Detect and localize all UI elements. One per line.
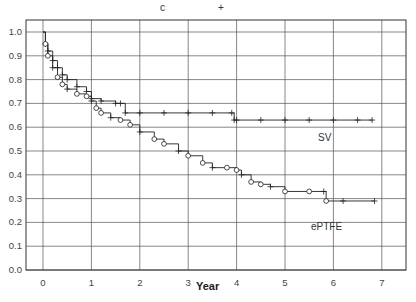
survival-curves [42,32,377,204]
series-label-eptfe: ePTFE [311,221,342,232]
series-label-sv: SV [318,132,331,143]
y-tick-label: 0.5 [0,145,22,156]
event-marker [152,137,157,142]
censor-marker [306,117,312,123]
event-marker [94,106,99,111]
y-tick-label: 0.9 [0,50,22,61]
x-tick-label: 1 [84,277,98,288]
y-tick-label: 0.8 [0,74,22,85]
event-marker [74,91,79,96]
x-tick-label: 3 [181,277,195,288]
event-marker [60,82,65,87]
event-marker [45,53,50,58]
censor-marker [209,165,215,171]
x-tick-label: 7 [375,277,389,288]
censor-marker [64,86,70,92]
x-axis-label: Year [196,280,219,292]
event-marker [307,189,312,194]
censor-marker [369,117,375,123]
censor-marker [137,110,143,116]
censor-marker [64,77,70,83]
event-marker [225,165,230,170]
y-tick-label: 0.2 [0,216,22,227]
event-marker [258,182,263,187]
event-marker [128,122,133,127]
x-tick-label: 6 [326,277,340,288]
censor-marker [176,148,182,154]
censor-marker [185,110,191,116]
event-marker [234,168,239,173]
y-tick-label: 0.0 [0,264,22,275]
censor-marker [258,117,264,123]
event-marker [200,161,205,166]
censor-marker [117,100,123,106]
plot-area [0,0,416,302]
y-tick-label: 0.4 [0,169,22,180]
y-tick-label: 0.6 [0,121,22,132]
censor-marker [330,117,336,123]
grid-lines [26,20,406,270]
event-marker [162,141,167,146]
curve-eptfe [43,32,375,201]
censor-marker [238,172,244,178]
km-chart: c + 1.00.90.80.70.60.50.40.30.20.10.0 01… [0,0,416,302]
x-tick-label: 5 [278,277,292,288]
censor-marker [137,129,143,135]
censor-marker [161,110,167,116]
censor-marker [122,110,128,116]
censor-marker [50,65,56,71]
event-marker [324,199,329,204]
x-tick-label: 2 [133,277,147,288]
event-marker [99,111,104,116]
curve-sv [43,32,372,120]
event-marker [118,118,123,123]
x-tick-label: 0 [36,277,50,288]
censor-marker [355,117,361,123]
y-tick-label: 0.3 [0,193,22,204]
y-tick-label: 0.7 [0,97,22,108]
y-tick-label: 1.0 [0,26,22,37]
event-marker [84,94,89,99]
event-marker [186,153,191,158]
event-marker [43,42,48,47]
censor-marker [108,115,114,121]
event-marker [283,189,288,194]
x-tick-label: 4 [230,277,244,288]
y-tick-label: 0.1 [0,240,22,251]
plot-frame [26,20,406,270]
event-marker [55,75,60,80]
censor-marker [209,110,215,116]
event-marker [249,180,254,185]
censor-marker [282,117,288,123]
